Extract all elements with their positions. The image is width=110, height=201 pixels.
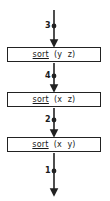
edge-2-marker	[52, 118, 55, 121]
edge-3-marker	[52, 24, 55, 27]
stage-args: (y z)	[54, 50, 75, 59]
edge-2-arrowhead-icon	[51, 130, 57, 136]
edge-1-arrowhead-icon	[51, 189, 57, 195]
stage-args: (x y)	[54, 140, 76, 149]
stage-op: sort	[32, 140, 48, 149]
edge-label-3: 3	[45, 22, 51, 30]
edge-4-arrowhead-icon	[51, 85, 57, 91]
edge-4-marker	[52, 74, 55, 77]
edge-label-2: 2	[45, 116, 51, 124]
edge-label-1: 1	[45, 167, 51, 175]
edge-3-arrowhead-icon	[51, 40, 57, 46]
stage-sort-x-z: sort (x z)	[7, 92, 101, 107]
edge-1-marker	[52, 169, 55, 172]
stage-args: (x z)	[54, 95, 75, 104]
stage-sort-x-y: sort (x y)	[7, 137, 101, 152]
stage-sort-y-z: sort (y z)	[7, 47, 101, 62]
stage-op: sort	[33, 50, 49, 59]
stage-op: sort	[33, 95, 49, 104]
edge-label-4: 4	[45, 72, 51, 80]
